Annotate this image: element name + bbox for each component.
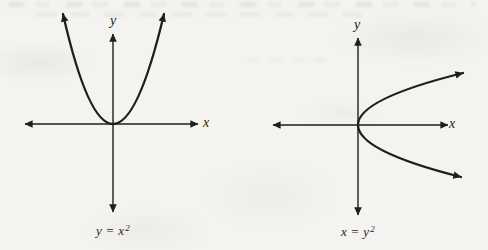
right-equation-base: x = y <box>341 224 369 239</box>
left-x-axis-label: x <box>203 116 209 130</box>
left-equation-label: y = x2 <box>96 223 130 237</box>
right-y-axis-label: y <box>354 18 360 32</box>
right-x-axis-label: x <box>449 117 455 131</box>
left-equation-exponent: 2 <box>125 223 130 233</box>
right-equation-label: x = y2 <box>341 224 375 238</box>
right-equation-exponent: 2 <box>370 224 375 234</box>
figures-canvas <box>0 0 488 250</box>
right-figure <box>273 38 463 215</box>
left-equation-base: y = x <box>96 223 124 238</box>
left-figure <box>25 14 198 212</box>
scanned-textbook-page: y x y = x2 y x x = y2 <box>0 0 488 250</box>
left-y-axis-label: y <box>110 14 116 28</box>
